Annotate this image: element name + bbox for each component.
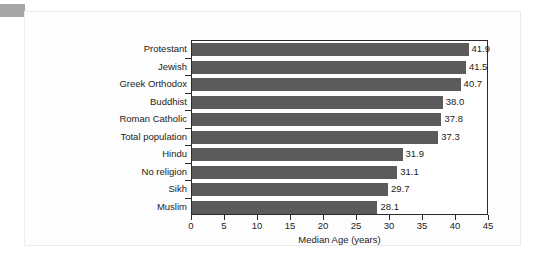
x-tick-label: 5 xyxy=(209,220,239,231)
bar-row xyxy=(192,164,487,182)
bar-row xyxy=(192,199,487,217)
bar xyxy=(192,183,388,196)
bar xyxy=(192,201,377,214)
category-label: Total population xyxy=(27,128,187,146)
bar-row xyxy=(192,181,487,199)
bar-row xyxy=(192,146,487,164)
category-label: Jewish xyxy=(27,58,187,76)
x-tick-label: 10 xyxy=(242,220,272,231)
category-label: Hindu xyxy=(27,145,187,163)
bar xyxy=(192,78,461,91)
bar xyxy=(192,166,397,179)
category-label: Sikh xyxy=(27,180,187,198)
bar-row xyxy=(192,94,487,112)
bar-row xyxy=(192,111,487,129)
category-label: Roman Catholic xyxy=(27,110,187,128)
bar-value-label: 40.7 xyxy=(464,75,483,93)
bar xyxy=(192,61,466,74)
bar-value-label: 37.8 xyxy=(444,110,463,128)
x-tick-label: 15 xyxy=(275,220,305,231)
x-tick-label: 30 xyxy=(374,220,404,231)
bar-row xyxy=(192,76,487,94)
bar xyxy=(192,148,403,161)
x-tick-label: 20 xyxy=(308,220,338,231)
bar xyxy=(192,113,441,126)
category-label: Greek Orthodox xyxy=(27,75,187,93)
bar-row xyxy=(192,59,487,77)
category-axis-labels: ProtestantJewishGreek OrthodoxBuddhistRo… xyxy=(25,40,187,215)
bar xyxy=(192,43,469,56)
chart-card: ProtestantJewishGreek OrthodoxBuddhistRo… xyxy=(24,11,521,246)
bar-value-label: 31.1 xyxy=(400,163,419,181)
x-tick-label: 40 xyxy=(440,220,470,231)
bar-value-label: 41.5 xyxy=(469,58,488,76)
category-label: Protestant xyxy=(27,40,187,58)
figure-root: ProtestantJewishGreek OrthodoxBuddhistRo… xyxy=(0,0,549,266)
category-label: Muslim xyxy=(27,198,187,216)
bar-value-label: 29.7 xyxy=(391,180,410,198)
x-tick-label: 0 xyxy=(176,220,206,231)
bar-value-label: 41.9 xyxy=(472,40,491,58)
category-label: Buddhist xyxy=(27,93,187,111)
category-label: No religion xyxy=(27,163,187,181)
x-tick-label: 45 xyxy=(473,220,503,231)
x-tick-label: 35 xyxy=(407,220,437,231)
bar-value-label: 37.3 xyxy=(441,128,460,146)
x-axis-title: Median Age (years) xyxy=(191,234,488,245)
bar-value-label: 38.0 xyxy=(446,93,465,111)
bar-value-label: 31.9 xyxy=(406,145,425,163)
bar xyxy=(192,131,438,144)
bar xyxy=(192,96,443,109)
bar-row xyxy=(192,41,487,59)
corner-accent-block xyxy=(0,4,25,17)
x-tick-label: 25 xyxy=(341,220,371,231)
bar-value-label: 28.1 xyxy=(380,198,399,216)
